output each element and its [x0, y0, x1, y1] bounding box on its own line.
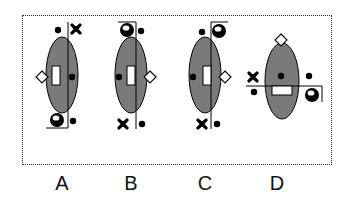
dot-icon	[70, 118, 76, 124]
option-b-label[interactable]: B	[116, 172, 146, 195]
option-a-figure[interactable]	[36, 22, 81, 128]
option-d-figure[interactable]	[246, 34, 322, 119]
rect-icon	[272, 86, 292, 95]
dot-icon	[55, 27, 61, 33]
ball-icon	[50, 113, 64, 127]
x-icon	[71, 24, 81, 34]
x-icon	[248, 72, 258, 82]
dot-icon	[138, 28, 144, 34]
dot-icon	[190, 74, 196, 80]
option-c-label[interactable]: C	[190, 172, 220, 195]
option-c-figure[interactable]	[189, 22, 231, 129]
option-d-label[interactable]: D	[262, 172, 292, 195]
rect-icon	[127, 66, 135, 85]
ellipse	[265, 43, 299, 119]
x-icon	[118, 119, 128, 129]
dot-icon	[199, 29, 205, 35]
rect-icon	[52, 66, 60, 85]
ball-icon	[120, 23, 134, 37]
dot-icon	[214, 121, 220, 127]
dot-icon	[278, 73, 284, 79]
ball-icon	[305, 88, 319, 102]
dot-icon	[69, 74, 75, 80]
dot-icon	[251, 89, 257, 95]
ball-icon	[212, 24, 226, 38]
option-b-figure[interactable]	[115, 22, 156, 129]
dot-icon	[116, 74, 122, 80]
option-a-label[interactable]: A	[47, 172, 77, 195]
x-icon	[197, 119, 207, 129]
dot-icon	[139, 121, 145, 127]
dot-icon	[306, 73, 312, 79]
rect-icon	[203, 66, 211, 85]
